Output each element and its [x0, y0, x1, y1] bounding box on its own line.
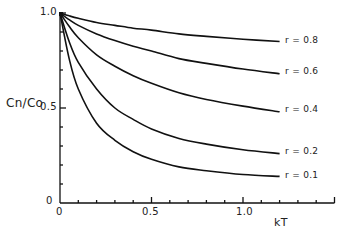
y-axis-label: Cn/Co [6, 96, 43, 110]
series-label-r01: r = 0.1 [285, 170, 318, 180]
x-tick-label-05: 0.5 [142, 206, 159, 217]
series-label-r06: r = 0.6 [285, 66, 318, 76]
y-tick-label-0: 0 [46, 195, 53, 206]
x-tick-label-0: 0 [56, 206, 63, 217]
y-tick-label-05: 0.5 [40, 101, 57, 112]
series-label-r08: r = 0.8 [285, 35, 318, 45]
curve-02 [60, 13, 280, 154]
curve-04 [60, 13, 280, 112]
series-label-r04: r = 0.4 [285, 104, 318, 114]
curve-01 [60, 13, 280, 176]
curve-08 [60, 13, 280, 42]
curves [60, 13, 280, 176]
series-label-r02: r = 0.2 [285, 146, 318, 156]
x-axis-label: kT [274, 216, 288, 229]
x-tick-label-1: 1.0 [236, 206, 253, 217]
y-tick-label-1: 1.0 [40, 6, 57, 17]
